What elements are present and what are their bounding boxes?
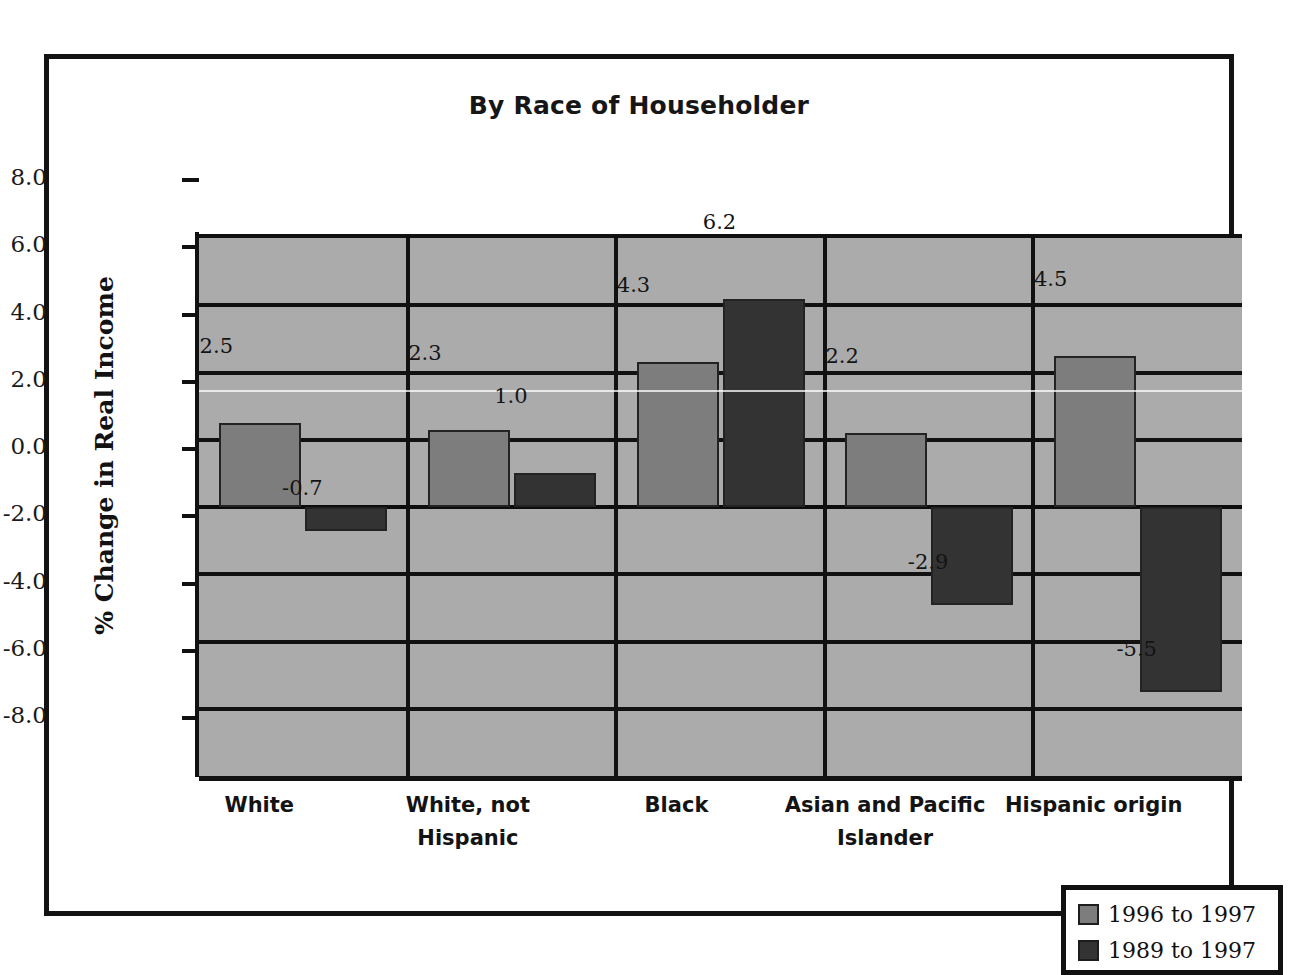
- chart-outer-frame: By Race of Householder % Change in Real …: [44, 54, 1234, 916]
- bar-1-4: [1140, 507, 1222, 692]
- bar-value-label-1-3: -2.9: [867, 550, 989, 574]
- bar-value-label-1-0: -0.7: [241, 476, 363, 500]
- category-separator-3: [823, 238, 827, 776]
- chart-legend: 1996 to 1997 1989 to 1997: [1061, 885, 1283, 975]
- y-tick-2.0: [182, 380, 199, 384]
- bar-value-label-0-3: 2.2: [781, 344, 903, 368]
- legend-item-series-2: 1989 to 1997: [1078, 932, 1278, 968]
- y-tick-4.0: [182, 313, 199, 317]
- gridline--6: [199, 707, 1242, 711]
- legend-label-series-1: 1996 to 1997: [1108, 902, 1256, 927]
- legend-label-series-2: 1989 to 1997: [1108, 938, 1256, 963]
- y-tick-label-6.0: 6.0: [10, 231, 47, 257]
- bar-value-label-0-1: 2.3: [364, 341, 486, 365]
- y-tick--2.0: [182, 514, 199, 518]
- bar-value-label-1-2: 6.2: [659, 210, 781, 234]
- y-tick-label--8.0: -8.0: [3, 702, 47, 728]
- y-tick-label-0.0: 0.0: [10, 433, 47, 459]
- y-tick-label--2.0: -2.0: [3, 500, 47, 526]
- x-label-line: Hispanic origin: [1005, 793, 1183, 817]
- y-axis-title: % Change in Real Income: [90, 196, 119, 716]
- category-separator-1: [406, 238, 410, 776]
- x-axis-label-4: Hispanic origin: [989, 789, 1198, 822]
- plot-area: [199, 234, 1242, 781]
- x-label-line: Black: [645, 793, 709, 817]
- bar-1-2: [723, 299, 805, 507]
- legend-swatch-icon-series-1: [1078, 904, 1099, 925]
- bar-1-0: [305, 507, 387, 531]
- y-tick-label--6.0: -6.0: [3, 635, 47, 661]
- legend-swatch-icon-series-2: [1078, 940, 1099, 961]
- bar-0-3: [845, 433, 927, 507]
- category-separator-2: [614, 238, 618, 776]
- y-tick--8.0: [182, 716, 199, 720]
- legend-item-series-1: 1996 to 1997: [1078, 896, 1278, 932]
- x-label-line: White, not: [406, 793, 530, 817]
- x-label-line: White: [225, 793, 295, 817]
- bar-0-2: [637, 362, 719, 507]
- y-tick-8.0: [182, 178, 199, 182]
- y-tick-6.0: [182, 245, 199, 249]
- x-label-line: Islander: [837, 826, 933, 850]
- gridline--2: [199, 572, 1242, 576]
- bar-0-4: [1054, 356, 1136, 507]
- x-label-line: Hispanic: [417, 826, 518, 850]
- y-tick--6.0: [182, 649, 199, 653]
- x-axis-label-2: Black: [572, 789, 781, 822]
- y-tick-label-2.0: 2.0: [10, 366, 47, 392]
- y-tick-label-4.0: 4.0: [10, 299, 47, 325]
- bar-value-label-0-4: 4.5: [990, 267, 1112, 291]
- y-tick-label-8.0: 8.0: [10, 164, 47, 190]
- category-separator-4: [1031, 238, 1035, 776]
- chart-title: By Race of Householder: [49, 91, 1229, 120]
- x-axis-label-0: White: [155, 789, 364, 822]
- y-tick-0.0: [182, 447, 199, 451]
- x-label-line: Asian and Pacific: [785, 793, 986, 817]
- gridline-6: [199, 303, 1242, 307]
- x-axis-label-1: White, notHispanic: [364, 789, 573, 855]
- y-tick-label--4.0: -4.0: [3, 568, 47, 594]
- x-axis-label-3: Asian and PacificIslander: [781, 789, 990, 855]
- bar-value-label-1-1: 1.0: [450, 384, 572, 408]
- bar-1-1: [514, 473, 596, 507]
- bar-0-1: [428, 430, 510, 507]
- bar-value-label-0-2: 4.3: [573, 273, 695, 297]
- bar-value-label-1-4: -5.5: [1076, 637, 1198, 661]
- y-tick--4.0: [182, 582, 199, 586]
- bar-value-label-0-0: 2.5: [155, 334, 277, 358]
